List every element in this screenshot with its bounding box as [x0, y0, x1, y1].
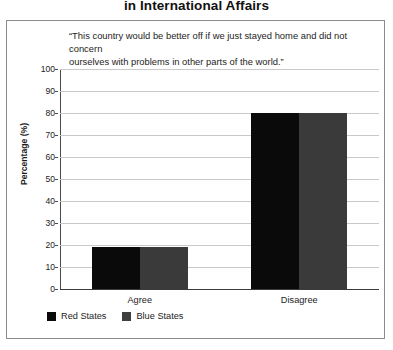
gridline-100 — [60, 69, 379, 70]
x-tick-label-disagree: Disagree — [259, 295, 339, 305]
y-axis-tick-labels: 0102030405060708090100 — [17, 69, 55, 290]
red-states-swatch-icon — [47, 312, 56, 321]
y-tick-mark-10 — [55, 267, 58, 268]
legend-label-blue-states: Blue States — [136, 311, 183, 321]
y-tick-label-20: 20 — [21, 241, 55, 249]
x-tick-label-agree: Agree — [100, 295, 180, 305]
y-tick-mark-30 — [55, 223, 58, 224]
y-tick-label-60: 60 — [21, 153, 55, 161]
y-tick-mark-0 — [55, 289, 58, 290]
y-tick-label-70: 70 — [21, 131, 55, 139]
bar-disagree-red-states — [251, 113, 299, 289]
y-tick-mark-80 — [55, 113, 58, 114]
plot-area: AgreeDisagree — [60, 69, 379, 289]
legend-item-red-states: Red States — [47, 311, 106, 321]
blue-states-swatch-icon — [122, 312, 131, 321]
legend-label-red-states: Red States — [61, 311, 106, 321]
page-title: in International Affairs — [0, 0, 393, 13]
y-tick-label-30: 30 — [21, 219, 55, 227]
y-tick-mark-50 — [55, 179, 58, 180]
gridline-0 — [60, 289, 379, 290]
y-tick-label-100: 100 — [21, 65, 55, 73]
y-tick-label-90: 90 — [21, 87, 55, 95]
y-tick-label-50: 50 — [21, 175, 55, 183]
y-tick-mark-90 — [55, 91, 58, 92]
y-tick-label-10: 10 — [21, 263, 55, 271]
chart-legend: Red States Blue States — [47, 311, 183, 321]
y-tick-label-80: 80 — [21, 109, 55, 117]
y-tick-label-0: 0 — [21, 285, 55, 293]
bar-disagree-blue-states — [299, 113, 347, 289]
legend-item-blue-states: Blue States — [122, 311, 183, 321]
y-tick-mark-70 — [55, 135, 58, 136]
y-tick-mark-20 — [55, 245, 58, 246]
gridline-90 — [60, 91, 379, 92]
y-tick-label-40: 40 — [21, 197, 55, 205]
figure-frame: “This country would be better off if we … — [6, 20, 385, 339]
y-tick-mark-60 — [55, 157, 58, 158]
y-tick-mark-100 — [55, 69, 58, 70]
bar-agree-blue-states — [140, 247, 188, 289]
bar-agree-red-states — [92, 247, 140, 289]
plot-wrap: Percentage (%) 0102030405060708090100 Ag… — [7, 21, 386, 340]
y-tick-mark-40 — [55, 201, 58, 202]
